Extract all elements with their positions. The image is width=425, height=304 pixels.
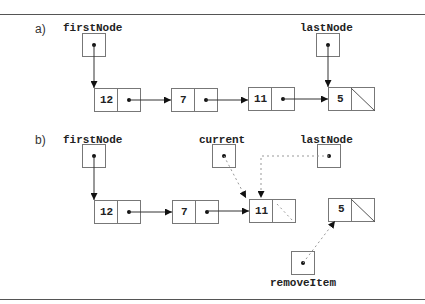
dashed-arrow-lastnode-to-11 [261, 156, 329, 198]
null-slash-icon [351, 88, 375, 111]
null-slash-icon [351, 199, 375, 222]
dashed-arrow-removeitem-to-5 [303, 221, 335, 263]
arrow-layer [0, 0, 425, 304]
dashed-link-11-next [277, 204, 293, 221]
dashed-arrow-current-to-11 [224, 156, 246, 198]
